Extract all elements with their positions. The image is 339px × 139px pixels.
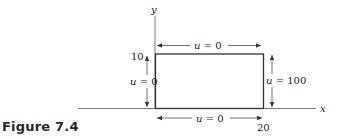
left-bc-label: u = 0	[130, 76, 158, 87]
y-axis-label: y	[150, 4, 157, 15]
rectangular-domain	[156, 54, 264, 109]
x-tick-20: 20	[257, 122, 270, 133]
right-bc-label: u = 100	[266, 75, 306, 86]
bottom-bc-label: u = 0	[196, 113, 224, 124]
y-tick-10: 10	[131, 51, 144, 62]
figure-caption: Figure 7.4	[2, 119, 79, 134]
top-bc-label: u = 0	[194, 40, 222, 51]
x-axis-label: x	[320, 103, 326, 114]
